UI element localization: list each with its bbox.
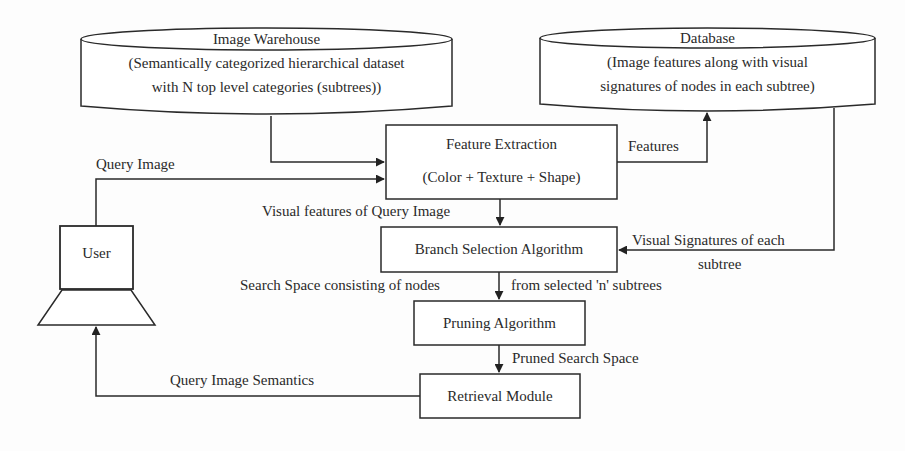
edge-label-visual-signatures-line2: subtree <box>698 255 741 273</box>
edge-label-features: Features <box>628 137 679 155</box>
feature-extraction-title: Feature Extraction <box>386 135 617 153</box>
branch-selection-title: Branch Selection Algorithm <box>381 240 617 258</box>
pruning-title: Pruning Algorithm <box>414 314 585 332</box>
diagram-canvas: Image Warehouse (Semantically categorize… <box>0 0 905 451</box>
edge-label-search-space-left: Search Space consisting of nodes <box>240 276 440 294</box>
retrieval-title: Retrieval Module <box>420 387 580 405</box>
user-title: User <box>60 244 133 262</box>
edge-label-visual-features-query: Visual features of Query Image <box>262 202 450 220</box>
edge-label-pruned-search-space: Pruned Search Space <box>512 349 639 367</box>
edge-label-query-image-semantics: Query Image Semantics <box>170 371 314 389</box>
image-warehouse-title: Image Warehouse <box>81 30 452 48</box>
edge-label-search-space-right: from selected 'n' subtrees <box>511 276 662 294</box>
edge-label-query-image: Query Image <box>96 155 175 173</box>
database-title: Database <box>540 29 875 47</box>
edge-label-visual-signatures-line1: Visual Signatures of each <box>632 231 785 249</box>
image-warehouse-desc-line1: (Semantically categorized hierarchical d… <box>81 54 452 72</box>
image-warehouse-desc-line2: with N top level categories (subtrees)) <box>81 78 452 96</box>
feature-extraction-subtitle: (Color + Texture + Shape) <box>386 168 617 186</box>
database-desc-line2: signatures of nodes in each subtree) <box>540 77 875 95</box>
user-keyboard <box>38 290 155 325</box>
database-desc-line1: (Image features along with visual <box>540 53 875 71</box>
